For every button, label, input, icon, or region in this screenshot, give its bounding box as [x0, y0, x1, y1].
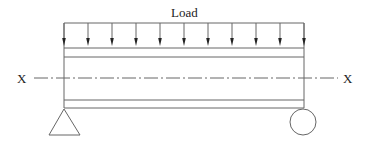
arrow-head-icon	[254, 38, 258, 46]
arrow-head-icon	[278, 38, 282, 46]
arrow-head-icon	[62, 38, 66, 46]
load-arrows	[62, 23, 306, 46]
axis-right-label: X	[343, 72, 352, 85]
arrow-head-icon	[86, 38, 90, 46]
arrow-head-icon	[206, 38, 210, 46]
arrow-head-icon	[110, 38, 114, 46]
arrow-head-icon	[230, 38, 234, 46]
arrow-head-icon	[158, 38, 162, 46]
axis-left-label: X	[17, 72, 26, 85]
arrow-head-icon	[182, 38, 186, 46]
arrow-head-icon	[302, 38, 306, 46]
beam-diagram: Load X X	[0, 0, 368, 146]
load-label: Load	[171, 6, 198, 19]
arrow-head-icon	[134, 38, 138, 46]
roller-support-circle	[290, 109, 316, 135]
beam-drawing	[0, 0, 368, 146]
pin-support-triangle	[49, 109, 80, 135]
